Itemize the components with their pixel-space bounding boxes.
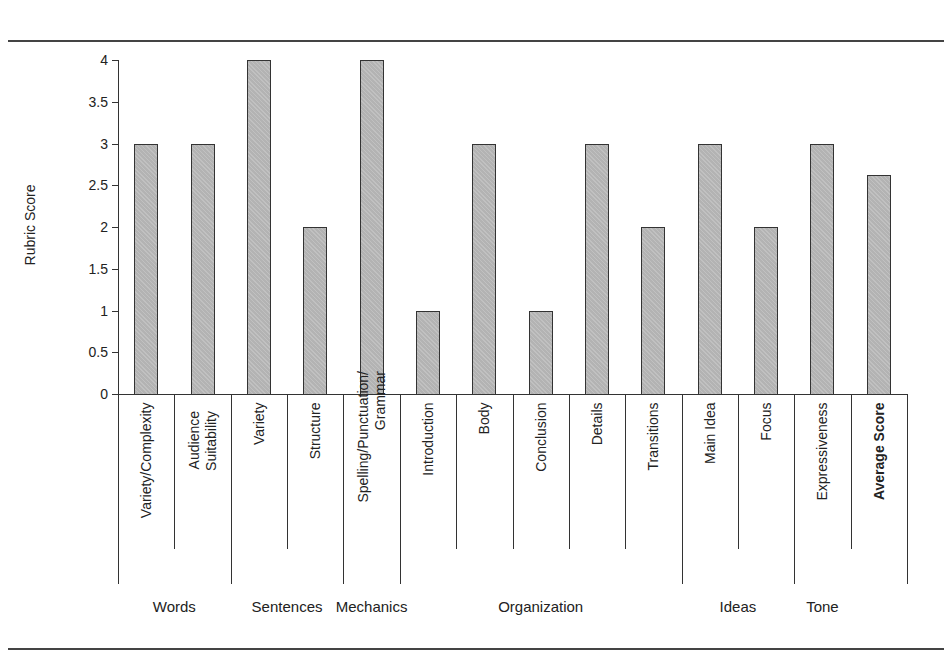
y-tick-label: 4	[68, 53, 108, 67]
bar	[754, 227, 778, 395]
y-tick	[112, 269, 118, 270]
y-tick	[112, 311, 118, 312]
y-tick-label: 3	[68, 137, 108, 151]
category-label: Average Score	[870, 403, 887, 563]
y-tick-label: 2	[68, 220, 108, 234]
category-label: Structure	[307, 403, 324, 563]
category-label: Details	[589, 403, 606, 563]
category-divider	[287, 394, 288, 549]
group-label: Ideas	[720, 598, 757, 615]
y-axis-label: Rubric Score	[22, 185, 38, 266]
category-divider	[569, 394, 570, 549]
category-divider	[174, 394, 175, 549]
y-tick-label: 0	[68, 387, 108, 401]
y-tick-label: 0.5	[68, 345, 108, 359]
bar	[585, 144, 609, 396]
y-tick	[112, 102, 118, 103]
bar	[134, 144, 158, 396]
y-tick-label: 1.5	[68, 262, 108, 276]
category-label: Conclusion	[532, 403, 549, 563]
category-divider	[851, 394, 852, 549]
bar	[303, 227, 327, 395]
category-divider	[794, 394, 795, 584]
category-label: Introduction	[419, 403, 436, 563]
category-divider	[513, 394, 514, 549]
y-axis	[118, 60, 119, 394]
category-divider	[231, 394, 232, 584]
bottom-rule	[8, 648, 944, 650]
category-label: Transitions	[645, 403, 662, 563]
y-tick	[112, 185, 118, 186]
category-divider	[907, 394, 908, 584]
group-label: Words	[153, 598, 196, 615]
category-label: Spelling/Punctuation/Grammar	[355, 371, 389, 571]
group-label: Organization	[498, 598, 583, 615]
category-label: Expressiveness	[814, 403, 831, 563]
bar	[416, 311, 440, 396]
y-tick	[112, 352, 118, 353]
category-divider	[625, 394, 626, 549]
bar	[867, 175, 891, 395]
bar	[810, 144, 834, 396]
y-tick-label: 3.5	[68, 95, 108, 109]
bar	[641, 227, 665, 395]
bar	[529, 311, 553, 396]
bar	[360, 60, 384, 395]
y-tick-label: 2.5	[68, 178, 108, 192]
category-divider	[400, 394, 401, 584]
y-tick	[112, 60, 118, 61]
y-tick	[112, 144, 118, 145]
bar	[191, 144, 215, 396]
category-label: Body	[476, 403, 493, 563]
category-divider	[682, 394, 683, 584]
category-divider	[343, 394, 344, 584]
bar	[247, 60, 271, 395]
bar	[472, 144, 496, 396]
group-label: Sentences	[252, 598, 323, 615]
group-label: Mechanics	[336, 598, 408, 615]
category-label: Main Idea	[701, 403, 718, 563]
y-tick	[112, 227, 118, 228]
category-divider	[738, 394, 739, 549]
bar	[698, 144, 722, 396]
category-label: Variety/Complexity	[138, 403, 155, 563]
category-label: Variety	[250, 403, 267, 563]
category-divider	[456, 394, 457, 549]
category-label: AudienceSuitability	[186, 411, 220, 571]
category-label: Focus	[758, 403, 775, 563]
group-label: Tone	[806, 598, 839, 615]
y-tick-label: 1	[68, 304, 108, 318]
top-rule	[8, 40, 944, 42]
category-divider	[118, 394, 119, 584]
